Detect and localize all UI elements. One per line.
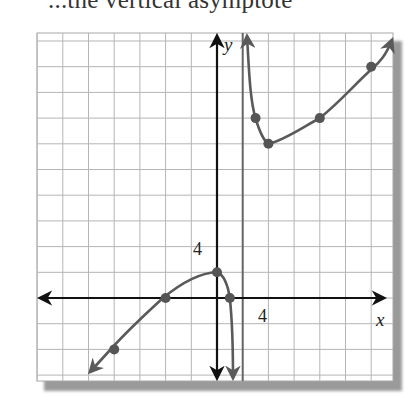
data-point (212, 267, 222, 277)
data-point (225, 293, 235, 303)
data-point (366, 62, 376, 72)
data-point (109, 344, 119, 354)
x-axis-label: x (375, 309, 385, 330)
data-point (263, 139, 273, 149)
data-point (251, 113, 261, 123)
x-tick-label-4: 4 (258, 306, 267, 326)
data-point (161, 293, 171, 303)
graph: y x 4 4 (0, 0, 415, 420)
data-point (315, 113, 325, 123)
grid-area (37, 33, 393, 381)
y-axis-label: y (222, 34, 233, 55)
y-tick-label-4: 4 (193, 239, 202, 259)
